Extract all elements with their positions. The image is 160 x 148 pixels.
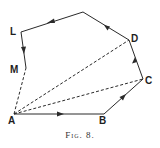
vertex-label-C: C bbox=[145, 76, 152, 86]
vertex-label-A: A bbox=[8, 116, 15, 126]
figure-caption: Fig. 8. bbox=[0, 130, 160, 140]
arrow-top-L-icon bbox=[47, 19, 55, 24]
dashed-AD bbox=[14, 40, 129, 114]
polygon-figure: L M A B C D Fig. 8. bbox=[0, 0, 160, 148]
vertex-label-D: D bbox=[131, 34, 138, 44]
vertex-label-M: M bbox=[10, 65, 18, 75]
vertex-label-B: B bbox=[99, 116, 106, 126]
arrow-D-top-icon bbox=[104, 25, 110, 31]
vertex-label-L: L bbox=[10, 27, 16, 37]
arrow-AB-icon bbox=[57, 112, 64, 117]
arrow-CD-icon bbox=[132, 57, 137, 64]
polygon-diagram bbox=[0, 0, 160, 148]
